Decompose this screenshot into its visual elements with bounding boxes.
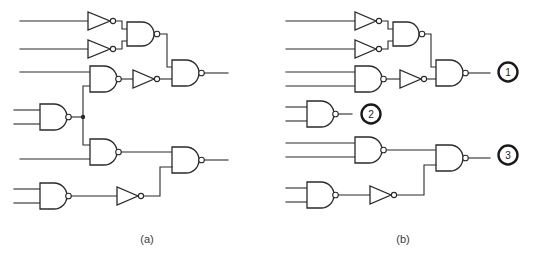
logic-circuit-figure: (a) — [0, 0, 535, 261]
caption-panel-b: (b) — [396, 233, 409, 245]
nand-b2 — [355, 66, 386, 92]
marker-1-label: 1 — [505, 67, 511, 78]
wire-b-inv1-to-nand1 — [382, 21, 393, 29]
inverter-a4 — [117, 187, 144, 205]
nand-b6-output — [436, 145, 468, 171]
wire-a-inv4-to-out — [144, 167, 172, 196]
nand-a6-output — [172, 147, 204, 173]
inverter-b3 — [400, 70, 427, 88]
wire-b-nand1-to-out — [425, 34, 436, 67]
nand-a7 — [40, 183, 71, 209]
inverter-b1 — [355, 12, 382, 30]
wire-b-inv4-to-out — [397, 165, 436, 195]
nand-b1 — [393, 22, 425, 46]
inverter-a3 — [133, 70, 160, 88]
marker-1: 1 — [499, 63, 518, 82]
nand-a1 — [127, 22, 160, 46]
panel-b-group: 1 2 — [286, 12, 518, 245]
wire-a-inv1-to-nand1 — [116, 21, 127, 29]
inverter-a2 — [88, 40, 116, 58]
inverter-b4 — [370, 186, 397, 204]
nand-a2 — [90, 66, 121, 92]
marker-2: 2 — [362, 105, 381, 124]
inverter-a1 — [88, 12, 116, 30]
panel-a-group: (a) — [14, 12, 228, 245]
wire-a-junction-down — [83, 117, 90, 145]
nand-a3-output — [172, 60, 204, 86]
wire-a-inv2-to-nand1 — [116, 41, 127, 49]
nand-b7 — [307, 182, 338, 208]
nand-b5 — [355, 137, 386, 163]
wire-b-inv2-to-nand1 — [382, 41, 393, 49]
caption-panel-a: (a) — [140, 233, 153, 245]
nand-b3-output — [436, 60, 468, 86]
marker-3: 3 — [499, 146, 518, 165]
marker-3-label: 3 — [505, 150, 511, 161]
wire-a-junction-up — [83, 86, 90, 117]
marker-2-label: 2 — [368, 109, 374, 120]
inverter-b2 — [355, 40, 382, 58]
nand-a4 — [40, 104, 71, 130]
nand-b4 — [307, 101, 338, 127]
nand-a5 — [90, 139, 121, 165]
circuit-diagram-svg: (a) — [0, 0, 535, 261]
wire-a-nand1-to-out — [160, 34, 172, 67]
